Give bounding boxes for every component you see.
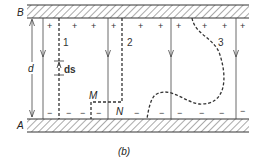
svg-text:−: − (80, 108, 85, 118)
svg-text:−: − (159, 108, 164, 118)
path-1-label: 1 (63, 37, 69, 48)
svg-text:+: + (158, 21, 163, 31)
svg-text:+: + (202, 21, 207, 31)
svg-text:+: + (240, 21, 245, 31)
separation-label-d: d (28, 63, 34, 74)
plate-a-label: A (16, 120, 24, 131)
parallel-plate-diagram: B A d 1 ds 2 M N 3 + (0, 0, 254, 162)
svg-text:−: − (240, 106, 245, 116)
bottom-plate-a (27, 119, 249, 132)
svg-text:+: + (91, 21, 96, 31)
negative-charges: − − − − − − − − − − (47, 106, 245, 118)
svg-text:−: − (47, 108, 52, 118)
svg-text:+: + (222, 21, 227, 31)
path-2-label: 2 (127, 37, 133, 48)
svg-text:−: − (219, 108, 224, 118)
svg-text:+: + (176, 21, 181, 31)
ds-label: ds (64, 64, 76, 75)
plate-b-label: B (17, 7, 24, 18)
point-m-label: M (89, 90, 98, 101)
figure-caption: (b) (118, 146, 130, 157)
svg-text:−: − (177, 108, 182, 118)
path-3-label: 3 (218, 37, 224, 48)
svg-text:+: + (72, 21, 77, 31)
svg-text:−: − (66, 108, 71, 118)
svg-text:+: + (111, 21, 116, 31)
top-plate-b (27, 5, 249, 18)
svg-text:+: + (47, 21, 52, 31)
svg-text:−: − (199, 108, 204, 118)
path-2 (91, 18, 122, 119)
positive-charges: + + + + + + + + + + (47, 21, 245, 31)
svg-text:+: + (138, 21, 143, 31)
svg-text:−: − (96, 108, 101, 118)
svg-text:−: − (134, 108, 139, 118)
path-3 (147, 18, 224, 119)
point-n-label: N (116, 106, 124, 117)
